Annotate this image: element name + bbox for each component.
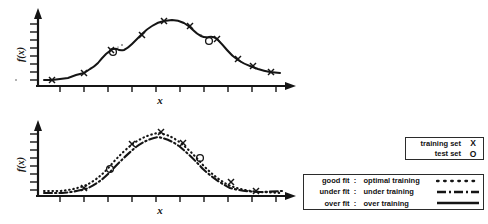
lower-plot-ylabel-text: f(x): [15, 157, 27, 172]
upper-plot-test-markers: [110, 38, 213, 56]
legend-label-over-fit: over fit: [304, 198, 351, 209]
legend-row-test-set: test set O: [406, 149, 483, 160]
legend-colon-under-fit: :: [351, 186, 360, 197]
figure-container: f(x) x: [0, 0, 488, 224]
lower-plot-x-axis: [36, 192, 296, 202]
upper-plot-y-axis-label: f(x): [15, 47, 27, 62]
legend-row-training-set: training set X: [406, 138, 483, 149]
legend-desc-under-training: under training: [360, 186, 434, 197]
lower-plot-xlabel-text: x: [156, 204, 163, 216]
upper-plot-ylabel-text: f(x): [15, 47, 27, 62]
legend-label-test-set: test set: [406, 149, 463, 160]
legend-desc-over-training: over training: [360, 198, 434, 209]
upper-plot-y-axis: [30, 8, 42, 86]
legend-label-good-fit: good fit: [304, 175, 351, 186]
upper-plot-x-axis: [36, 82, 296, 92]
training-set-x-marker-icon: X: [463, 138, 483, 149]
upper-plot-training-markers: [49, 18, 274, 83]
lower-plot: f(x) x: [15, 120, 296, 216]
legend-dataset-markers: training set X test set O: [405, 137, 484, 160]
upper-plot-speckle: [15, 34, 201, 80]
legend-colon-good-fit: :: [351, 175, 360, 186]
legend-fit-types: good fit : optimal training under fit : …: [303, 174, 484, 210]
upper-plot-xlabel-text: x: [156, 94, 163, 106]
lower-plot-y-axis-label: f(x): [15, 157, 27, 172]
legend-row-under-fit: under fit : under training: [304, 186, 483, 197]
legend-row-good-fit: good fit : optimal training: [304, 175, 483, 186]
legend-line-sample-solid-icon: [434, 198, 483, 209]
upper-plot-overfit-curve: [44, 20, 280, 80]
legend-line-sample-dashdot-icon: [434, 186, 483, 197]
lower-plot-goodfit-curve: [44, 133, 282, 193]
legend-label-training-set: training set: [406, 138, 463, 149]
legend-label-under-fit: under fit: [304, 186, 351, 197]
legend-desc-optimal-training: optimal training: [360, 175, 434, 186]
legend-row-over-fit: over fit : over training: [304, 198, 483, 209]
lower-plot-underfit-curve: [44, 137, 282, 193]
lower-plot-test-markers: [107, 155, 204, 173]
legend-colon-over-fit: :: [351, 198, 360, 209]
test-set-o-marker-icon: O: [463, 149, 483, 160]
upper-plot: f(x) x: [15, 8, 296, 106]
lower-plot-training-markers: [81, 129, 259, 194]
lower-plot-y-axis: [30, 120, 42, 196]
legend-line-sample-dotted-icon: [434, 175, 483, 186]
